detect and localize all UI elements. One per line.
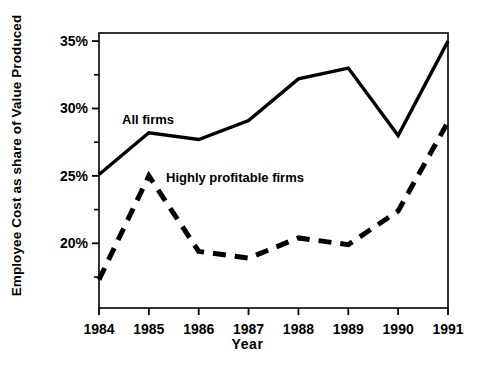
x-tick-label: 1984	[83, 321, 114, 337]
x-tick-label: 1987	[233, 321, 264, 337]
x-tick-label: 1985	[133, 321, 164, 337]
x-tick-label: 1990	[383, 321, 414, 337]
series-annotation-highly-profitable-firms: Highly profitable firms	[166, 170, 304, 185]
x-tick-label: 1989	[333, 321, 364, 337]
y-tick-label: 20%	[60, 235, 89, 251]
y-tick-label: 25%	[60, 168, 89, 184]
x-tick-label: 1991	[432, 321, 463, 337]
chart-plot-area: 35%30%25%20%1984198519861987198819891990…	[0, 0, 495, 369]
series-line-highly-profitable-firms	[99, 122, 448, 280]
x-tick-label: 1986	[183, 321, 214, 337]
y-tick-label: 35%	[60, 33, 89, 49]
x-axis-title: Year	[0, 336, 495, 352]
series-line-all-firms	[99, 41, 448, 174]
y-tick-label: 30%	[60, 100, 89, 116]
series-annotation-all-firms: All firms	[122, 112, 174, 127]
x-tick-label: 1988	[283, 321, 314, 337]
chart-container: Employee Cost as share of Value Produced…	[0, 0, 495, 369]
